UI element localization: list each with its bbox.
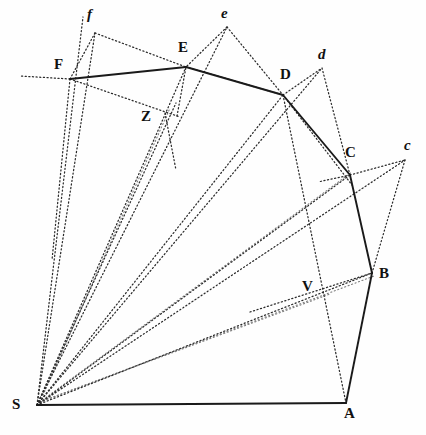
edge-S-A (37, 403, 346, 405)
faint-S-V (40, 294, 330, 402)
faint-construction-lines (40, 108, 374, 402)
point-label-C: C (345, 145, 356, 160)
chord-F-down-long (52, 79, 70, 260)
ray-S-f (37, 33, 95, 405)
edge-B-C (350, 175, 372, 273)
chord-c-B (372, 160, 405, 273)
chord-e-D (227, 27, 283, 95)
point-label-D: D (280, 67, 291, 82)
diagram-canvas: SABCDEFZVcdef (0, 0, 426, 435)
edge-A-B (346, 273, 372, 403)
chord-F-f (70, 33, 95, 79)
chord-C-c (350, 160, 405, 175)
edge-E-F (70, 67, 186, 79)
chord-f-E (95, 33, 186, 67)
point-label-d: d (318, 47, 326, 62)
edge-D-E (186, 67, 283, 95)
chord-F-left-extension (20, 76, 70, 79)
chord-C-left-ext (318, 175, 350, 182)
point-label-e: e (221, 6, 228, 21)
point-label-B: B (379, 266, 389, 281)
point-label-V: V (302, 279, 313, 294)
chord-Z-F-down (165, 113, 176, 170)
faint-S-Z-inner (40, 108, 170, 402)
chord-Z-E (177, 67, 186, 116)
chord-e-E (186, 27, 227, 67)
point-label-S: S (12, 397, 20, 412)
solid-orbit-edges (37, 67, 372, 405)
ray-S-e (37, 27, 227, 405)
ray-S-F-extended (37, 17, 83, 405)
point-label-Z: Z (141, 109, 151, 124)
point-label-E: E (178, 40, 188, 55)
point-label-F: F (54, 57, 63, 72)
point-label-f: f (87, 7, 92, 22)
chord-D-V (283, 95, 346, 403)
ray-S-c (37, 160, 405, 405)
geometry-figure (0, 0, 426, 435)
ray-S-d (37, 68, 322, 405)
chord-F-Z (70, 79, 180, 117)
ray-S-E (37, 67, 186, 405)
point-label-A: A (344, 406, 355, 421)
point-label-c: c (404, 138, 411, 153)
